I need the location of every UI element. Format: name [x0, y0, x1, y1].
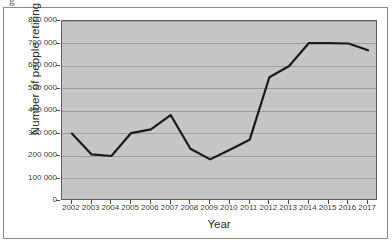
plot-area: [61, 20, 377, 200]
y-axis-tick-mark: [56, 133, 60, 134]
x-axis-tick-mark: [308, 200, 309, 204]
x-axis-tick-mark: [229, 200, 230, 204]
y-axis-tick-label: 600 000: [3, 61, 57, 69]
x-axis-tick-mark: [130, 200, 131, 204]
x-axis-tick-mark: [71, 200, 72, 204]
x-axis-tick-mark: [91, 200, 92, 204]
y-axis-tick-mark: [56, 43, 60, 44]
x-axis-tick-mark: [170, 200, 171, 204]
y-axis-tick-mark: [56, 155, 60, 156]
x-axis-title: Year: [61, 218, 377, 230]
line-chart: Number of people retiring 0100 000200 00…: [4, 8, 389, 240]
y-axis-tick-label: 800 000: [3, 16, 57, 24]
x-axis-tick-label: 2017: [352, 204, 382, 212]
scan-artifact-glyph: g: [9, 0, 19, 6]
y-axis-tick-mark: [56, 20, 60, 21]
y-axis-tick-label: 400 000: [3, 106, 57, 114]
y-axis-title: Number of people retiring: [29, 0, 41, 162]
x-axis-tick-mark: [150, 200, 151, 204]
x-axis-tick-mark: [268, 200, 269, 204]
y-axis-tick-mark: [56, 178, 60, 179]
y-axis-tick-mark: [56, 200, 60, 201]
y-axis-tick-label: 500 000: [3, 84, 57, 92]
y-axis-tick-label: 100 000: [3, 174, 57, 182]
x-axis-tick-mark: [347, 200, 348, 204]
y-axis-tick-label: 0: [3, 196, 57, 204]
x-axis-tick-mark: [367, 200, 368, 204]
y-axis-tick-mark: [56, 110, 60, 111]
x-axis-tick-mark: [288, 200, 289, 204]
y-axis-tick-label: 700 000: [3, 39, 57, 47]
x-axis-tick-mark: [189, 200, 190, 204]
figure-frame: Number of people retiring 0100 000200 00…: [3, 7, 388, 239]
x-axis-tick-mark: [328, 200, 329, 204]
series-line: [62, 21, 377, 200]
y-axis-tick-mark: [56, 65, 60, 66]
y-axis-tick-label: 200 000: [3, 151, 57, 159]
x-axis-tick-mark: [209, 200, 210, 204]
y-axis-tick-label: 300 000: [3, 129, 57, 137]
x-axis-tick-mark: [249, 200, 250, 204]
y-axis-tick-mark: [56, 88, 60, 89]
x-axis-tick-mark: [110, 200, 111, 204]
